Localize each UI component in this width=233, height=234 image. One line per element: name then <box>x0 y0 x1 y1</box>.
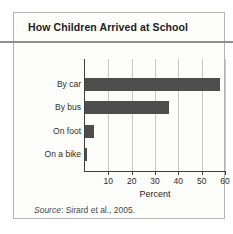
gridline <box>202 59 203 171</box>
axis-tick <box>132 171 133 175</box>
axis-tick-label: 30 <box>150 176 159 186</box>
gridline <box>225 59 226 171</box>
axis-tick <box>178 171 179 175</box>
category-label: On foot <box>17 125 81 138</box>
category-label: On a bike <box>17 148 81 161</box>
category-label: By bus <box>17 101 81 114</box>
bar <box>85 148 87 161</box>
axis-tick-label: 20 <box>127 176 136 186</box>
axis-tick-label: 10 <box>104 176 113 186</box>
source-note: Source: Sirard et al., 2005. <box>34 205 135 215</box>
bar <box>85 101 169 114</box>
axis-tick-label: 50 <box>197 176 206 186</box>
gridline <box>178 59 179 171</box>
axis-tick <box>108 171 109 175</box>
title-rule <box>0 41 233 43</box>
gridline <box>132 59 133 171</box>
axis-tick-label: 60 <box>220 176 229 186</box>
axis-tick <box>202 171 203 175</box>
axis-tick <box>155 171 156 175</box>
source-note-prefix: Source <box>34 205 61 215</box>
bar <box>85 78 220 91</box>
bar <box>85 125 94 138</box>
axis-tick <box>225 171 226 175</box>
chart-title: How Children Arrived at School <box>28 21 188 33</box>
figure-card: How Children Arrived at School Percent 1… <box>13 12 225 219</box>
axis-tick-label: 40 <box>174 176 183 186</box>
x-axis-label: Percent <box>139 189 170 199</box>
gridline <box>155 59 156 171</box>
category-label: By car <box>17 78 81 91</box>
gridline <box>108 59 109 171</box>
source-note-text: : Sirard et al., 2005. <box>61 205 135 215</box>
plot-area: Percent 102030405060By carBy busOn footO… <box>84 59 225 172</box>
